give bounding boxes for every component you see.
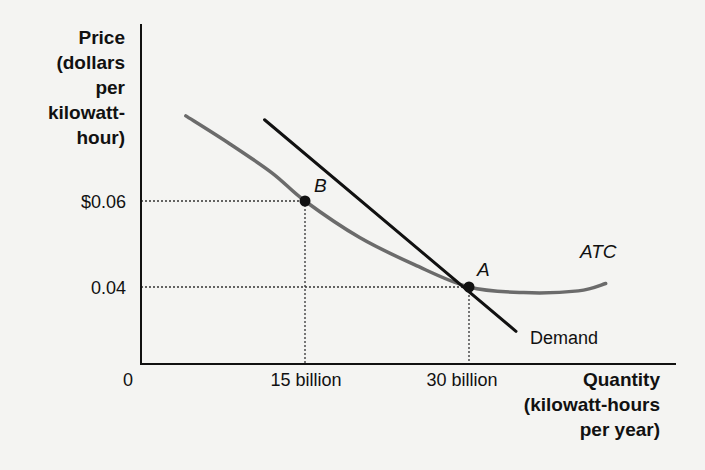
reference-lines xyxy=(141,201,469,364)
y-axis-label-line: per xyxy=(95,77,125,98)
x-origin-label: 0 xyxy=(123,370,133,390)
atc-curve xyxy=(186,116,606,293)
point-b-label: B xyxy=(314,175,327,196)
point-a xyxy=(464,282,475,293)
x-axis-label-line: per year) xyxy=(580,419,660,440)
point-a-label: A xyxy=(476,259,490,280)
y-tick-label: 0.04 xyxy=(91,278,126,298)
chart: Price (dollars per kilowatt- hour) $0.06… xyxy=(0,0,705,470)
x-axis-label-line: (kilowatt-hours xyxy=(524,394,660,415)
x-tick-label: 30 billion xyxy=(426,370,497,390)
y-axis-label-line: Price xyxy=(79,27,125,48)
series-group xyxy=(186,116,606,331)
y-tick-label: $0.06 xyxy=(81,192,126,212)
x-axis-label-line: Quantity xyxy=(583,369,660,390)
atc-label: ATC xyxy=(579,241,617,262)
demand-curve xyxy=(265,120,516,332)
point-b xyxy=(300,196,311,207)
y-axis-label-line: kilowatt- xyxy=(48,102,125,123)
y-axis-label-line: (dollars xyxy=(56,52,125,73)
x-tick-label: 15 billion xyxy=(270,370,341,390)
y-axis-label-line: hour) xyxy=(76,127,125,148)
demand-label: Demand xyxy=(530,328,598,348)
